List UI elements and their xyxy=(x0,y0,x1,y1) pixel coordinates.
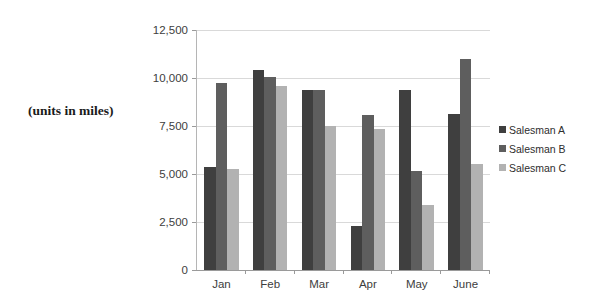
legend-swatch-icon xyxy=(499,145,506,152)
bar-group xyxy=(344,30,393,270)
bar xyxy=(471,164,483,270)
bar-group xyxy=(392,30,441,270)
legend-swatch-icon xyxy=(499,126,506,133)
x-tick-label: Apr xyxy=(359,278,377,290)
y-tick-label: 12,500 xyxy=(153,24,188,36)
legend-label: Salesman B xyxy=(509,143,566,155)
y-tick-label: 2,500 xyxy=(159,216,188,228)
y-tick-label: 0 xyxy=(182,264,188,276)
bar-group xyxy=(441,30,490,270)
plot-area xyxy=(197,30,490,270)
bar xyxy=(411,171,423,270)
x-tick-mark xyxy=(391,270,392,274)
units-caption: (units in miles) xyxy=(28,103,168,119)
bar xyxy=(313,90,325,270)
bar xyxy=(374,129,386,270)
legend-label: Salesman A xyxy=(509,124,565,136)
x-tick-label: June xyxy=(453,278,478,290)
bar-group xyxy=(197,30,246,270)
x-tick-label: Mar xyxy=(309,278,329,290)
y-tick-label: 10,000 xyxy=(153,72,188,84)
bar xyxy=(276,86,288,270)
bar xyxy=(264,77,276,270)
x-tick-label: May xyxy=(406,278,428,290)
bar xyxy=(302,90,314,270)
legend-swatch-icon xyxy=(499,164,506,171)
bar xyxy=(422,205,434,270)
bar xyxy=(204,167,216,270)
bar-chart: 02,5005,0007,50010,00012,500 JanFebMarAp… xyxy=(196,30,490,270)
x-tick-mark xyxy=(489,270,490,274)
legend-label: Salesman C xyxy=(509,162,566,174)
chart-screenshot: (units in miles) 02,5005,0007,50010,0001… xyxy=(0,0,595,300)
y-tick-label: 5,000 xyxy=(159,168,188,180)
x-tick-mark xyxy=(343,270,344,274)
y-tick-label: 7,500 xyxy=(159,120,188,132)
bar xyxy=(460,59,472,270)
x-tick-label: Jan xyxy=(212,278,231,290)
bar xyxy=(253,70,265,270)
bar xyxy=(399,90,411,270)
legend-item: Salesman A xyxy=(499,120,566,139)
bar xyxy=(216,83,228,270)
x-tick-mark xyxy=(440,270,441,274)
legend-item: Salesman C xyxy=(499,158,566,177)
x-tick-mark xyxy=(245,270,246,274)
bar xyxy=(362,115,374,270)
bar-group xyxy=(295,30,344,270)
legend-item: Salesman B xyxy=(499,139,566,158)
chart-legend: Salesman ASalesman BSalesman C xyxy=(499,120,566,177)
x-tick-label: Feb xyxy=(260,278,280,290)
bar xyxy=(325,126,337,270)
x-tick-mark xyxy=(294,270,295,274)
bar-group xyxy=(246,30,295,270)
bar xyxy=(227,169,239,270)
bar xyxy=(448,114,460,270)
bar xyxy=(351,226,363,270)
